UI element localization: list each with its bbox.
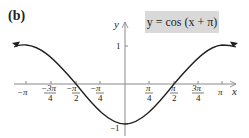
chart-area: y x 1 −1 −π −3π 4 −π 2 −π 4 π 4 π 2 3π 4… — [0, 0, 249, 138]
x-tick-label-pi: π — [218, 87, 223, 97]
x-tick-label-3pi-4: 3π 4 — [191, 83, 204, 103]
svg-text:π: π — [218, 87, 223, 97]
x-axis-label: x — [231, 85, 237, 97]
svg-text:3π: 3π — [191, 83, 202, 93]
y-axis-label: y — [113, 18, 119, 30]
curve-left-arrow-icon — [12, 42, 20, 48]
y-tick-label-1: 1 — [116, 41, 121, 51]
x-tick-label-neg-pi-4: −π 4 — [90, 83, 104, 103]
x-tick-label-neg-pi: −π — [17, 87, 28, 97]
svg-text:4: 4 — [147, 93, 152, 103]
svg-text:−3π: −3π — [41, 83, 57, 93]
x-tick-label-neg-3pi-4: −3π 4 — [41, 83, 57, 103]
svg-text:2: 2 — [74, 93, 79, 103]
svg-text:−π: −π — [17, 87, 28, 97]
x-tick-label-pi-4: π 4 — [145, 83, 153, 103]
svg-text:−π: −π — [66, 83, 77, 93]
svg-text:2: 2 — [172, 93, 177, 103]
svg-text:π: π — [146, 83, 151, 93]
svg-text:4: 4 — [98, 93, 103, 103]
y-tick-label-neg1: −1 — [110, 123, 120, 133]
svg-text:4: 4 — [48, 93, 53, 103]
x-tick-label-pi-2: π 2 — [170, 83, 178, 103]
svg-text:4: 4 — [196, 93, 201, 103]
svg-text:−π: −π — [90, 83, 101, 93]
svg-text:π: π — [171, 83, 176, 93]
